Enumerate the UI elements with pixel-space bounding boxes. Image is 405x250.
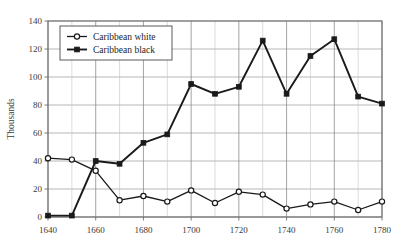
data-point-marker xyxy=(308,54,313,59)
data-point-marker xyxy=(332,199,337,204)
data-point-marker xyxy=(189,82,194,87)
x-axis-tick-label: 1720 xyxy=(230,225,249,235)
data-point-marker xyxy=(93,168,98,173)
y-axis-tick-label: 80 xyxy=(33,100,43,110)
x-axis-tick-label: 1760 xyxy=(325,225,344,235)
legend-label: Caribbean white xyxy=(93,32,156,42)
legend-marker-filled-square-icon xyxy=(75,47,80,52)
x-axis-tick-label: 1740 xyxy=(278,225,297,235)
x-axis-tick-label: 1780 xyxy=(373,225,392,235)
data-point-marker xyxy=(380,101,385,106)
x-axis-tick-label: 1680 xyxy=(134,225,153,235)
x-axis-tick-label: 1640 xyxy=(39,225,58,235)
data-point-marker xyxy=(165,199,170,204)
data-point-marker xyxy=(69,213,74,218)
x-axis-tick-label: 1660 xyxy=(87,225,106,235)
y-axis-tick-label: 120 xyxy=(29,44,43,54)
legend-label: Caribbean black xyxy=(93,45,155,55)
legend-marker-open-circle-icon xyxy=(74,34,79,39)
data-point-marker xyxy=(117,198,122,203)
data-point-marker xyxy=(46,213,51,218)
y-axis-title: Thousands xyxy=(6,98,16,139)
data-point-marker xyxy=(236,189,241,194)
data-point-marker xyxy=(260,192,265,197)
data-point-marker xyxy=(356,94,361,99)
data-point-marker xyxy=(165,132,170,137)
data-point-marker xyxy=(284,91,289,96)
x-axis: 16401660168017001720174017601780 xyxy=(39,217,392,235)
line-chart: 020406080100120140Thousands1640166016801… xyxy=(0,0,405,250)
chart-container: 020406080100120140Thousands1640166016801… xyxy=(0,0,405,250)
y-axis: 020406080100120140 xyxy=(29,16,49,222)
data-point-marker xyxy=(141,140,146,145)
data-point-marker xyxy=(189,188,194,193)
data-point-marker xyxy=(284,206,289,211)
data-point-marker xyxy=(356,207,361,212)
data-point-marker xyxy=(212,200,217,205)
x-axis-tick-label: 1700 xyxy=(182,225,201,235)
y-axis-tick-label: 60 xyxy=(33,128,43,138)
data-point-marker xyxy=(236,84,241,89)
y-axis-tick-label: 20 xyxy=(33,184,43,194)
data-point-marker xyxy=(45,156,50,161)
data-point-marker xyxy=(93,159,98,164)
data-point-marker xyxy=(69,157,74,162)
data-point-marker xyxy=(260,38,265,43)
data-point-marker xyxy=(308,202,313,207)
data-point-marker xyxy=(117,161,122,166)
y-axis-tick-label: 40 xyxy=(33,156,43,166)
y-axis-tick-label: 100 xyxy=(29,72,43,82)
data-point-marker xyxy=(141,193,146,198)
data-point-marker xyxy=(379,199,384,204)
y-axis-tick-label: 0 xyxy=(38,212,43,222)
y-axis-tick-label: 140 xyxy=(29,16,43,26)
legend: Caribbean whiteCaribbean black xyxy=(60,26,172,60)
data-point-marker xyxy=(213,91,218,96)
data-point-marker xyxy=(332,37,337,42)
